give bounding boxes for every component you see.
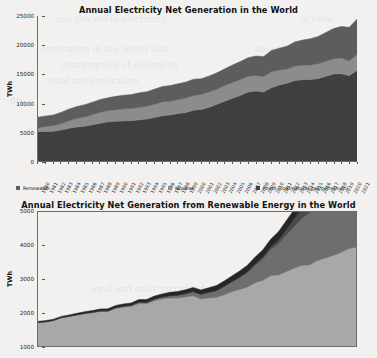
chart1-title: Annual Electricity Net Generation in the… (0, 0, 377, 16)
x-tick-mark (138, 162, 139, 164)
y-tick-label: 5000 (20, 130, 34, 136)
x-tick-mark (341, 162, 342, 164)
x-tick-mark (302, 162, 303, 164)
legend-swatch (256, 186, 260, 190)
legend-swatch (16, 186, 20, 190)
y-tick-mark (42, 347, 45, 348)
chart1-plot-area: TWh 2500020000150001000050000 (0, 16, 377, 162)
x-tick-mark (349, 162, 350, 164)
legend-item: Renewable (16, 185, 50, 191)
x-tick-mark (107, 162, 108, 164)
chart2-title: Annual Electricity Net Generation from R… (0, 196, 377, 211)
x-tick-mark (37, 162, 38, 164)
x-tick-mark (279, 162, 280, 164)
x-tick-mark (287, 162, 288, 164)
x-tick-mark (217, 162, 218, 164)
x-tick-mark (224, 162, 225, 164)
chart-renewable-energy-net-generation: Annual Electricity Net Generation from R… (0, 196, 377, 358)
x-tick-mark (232, 162, 233, 164)
x-tick-mark (326, 162, 327, 164)
legend-label: Fossil (coal/natural gas/petroleum) (263, 185, 348, 191)
x-tick-mark (60, 162, 61, 164)
y-tick-label: 5000 (20, 208, 34, 214)
chart1-x-tick-labels: 1980198119821983198419851986198719881989… (37, 162, 357, 184)
y-tick-label: 3000 (20, 276, 34, 282)
chart1-legend: RenewableNuclearFossil (coal/natural gas… (0, 184, 377, 196)
x-tick-mark (53, 162, 54, 164)
chart2-plot-area: TWh 50004000300020001000 (0, 211, 377, 347)
x-tick-mark (177, 162, 178, 164)
x-tick-mark (154, 162, 155, 164)
y-tick-label: 1000 (20, 344, 34, 350)
x-tick-mark (263, 162, 264, 164)
x-tick-mark (201, 162, 202, 164)
legend-item: Fossil (coal/natural gas/petroleum) (256, 185, 348, 191)
chart-annual-electricity-net-generation: Annual Electricity Net Generation in the… (0, 0, 377, 196)
x-tick-mark (357, 162, 358, 164)
x-tick-mark (68, 162, 69, 164)
x-tick-mark (146, 162, 147, 164)
x-tick-mark (334, 162, 335, 164)
chart1-plot (37, 16, 357, 162)
chart2-plot (37, 211, 357, 347)
x-tick-mark (45, 162, 46, 164)
x-tick-mark (256, 162, 257, 164)
chart2-y-tick-labels: 50004000300020001000 (8, 211, 34, 347)
y-tick-label: 10000 (16, 101, 34, 107)
y-tick-label: 2000 (20, 310, 34, 316)
x-tick-mark (248, 162, 249, 164)
x-tick-mark (99, 162, 100, 164)
x-tick-mark (92, 162, 93, 164)
legend-label: Renewable (23, 185, 50, 191)
legend-label: Nuclear (175, 185, 194, 191)
x-tick-mark (84, 162, 85, 164)
x-tick-mark (295, 162, 296, 164)
x-tick-mark (240, 162, 241, 164)
x-tick-mark (170, 162, 171, 164)
y-tick-label: 20000 (16, 42, 34, 48)
x-tick-mark (162, 162, 163, 164)
x-tick-mark (193, 162, 194, 164)
x-tick-mark (131, 162, 132, 164)
x-tick-mark (185, 162, 186, 164)
x-tick-mark (209, 162, 210, 164)
x-tick-mark (271, 162, 272, 164)
chart1-y-tick-labels: 2500020000150001000050000 (8, 16, 34, 162)
y-tick-label: 4000 (20, 242, 34, 248)
y-tick-label: 25000 (16, 13, 34, 19)
x-tick-mark (115, 162, 116, 164)
x-tick-mark (318, 162, 319, 164)
y-tick-label: 15000 (16, 71, 34, 77)
x-tick-mark (76, 162, 77, 164)
x-tick-mark (123, 162, 124, 164)
legend-swatch (168, 186, 172, 190)
x-tick-mark (310, 162, 311, 164)
legend-item: Nuclear (168, 185, 194, 191)
